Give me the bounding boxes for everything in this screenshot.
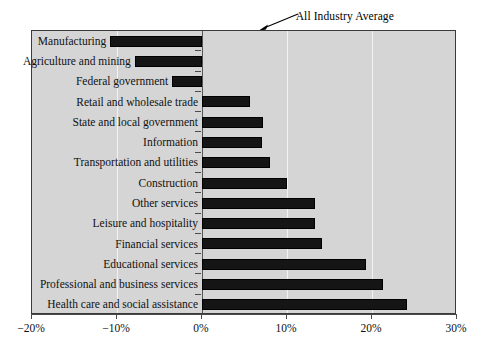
category-tick bbox=[195, 253, 201, 254]
category-tick bbox=[195, 131, 201, 132]
category-tick bbox=[195, 111, 201, 112]
category-tick bbox=[195, 233, 201, 234]
bar bbox=[202, 178, 287, 189]
bar bbox=[202, 279, 383, 290]
category-label: Agriculture and mining bbox=[23, 55, 131, 67]
category-tick bbox=[195, 172, 201, 173]
bar-row bbox=[32, 193, 455, 213]
x-axis-tick bbox=[456, 314, 457, 319]
x-axis-tick-label: 30% bbox=[445, 322, 466, 334]
x-axis-tick-label: 20% bbox=[360, 322, 381, 334]
category-label: Leisure and hospitality bbox=[93, 217, 198, 229]
category-label: Health care and social assistance bbox=[47, 298, 198, 310]
category-label: Educational services bbox=[103, 258, 198, 270]
x-axis-tick bbox=[201, 314, 202, 319]
category-tick bbox=[195, 91, 201, 92]
bar bbox=[202, 238, 322, 249]
bar bbox=[172, 76, 202, 87]
x-axis-tick-label: 10% bbox=[275, 322, 296, 334]
bar bbox=[110, 36, 202, 47]
x-axis-tick bbox=[371, 314, 372, 319]
x-axis-tick bbox=[116, 314, 117, 319]
category-tick bbox=[195, 213, 201, 214]
x-axis-tick-label: 0% bbox=[193, 322, 208, 334]
all-industry-average-arrow-icon bbox=[254, 12, 300, 32]
all-industry-average-label: All Industry Average bbox=[296, 10, 394, 22]
category-label: Federal government bbox=[76, 75, 168, 87]
bar bbox=[202, 137, 262, 148]
x-axis-tick bbox=[286, 314, 287, 319]
category-label: Professional and business services bbox=[40, 278, 198, 290]
category-tick bbox=[195, 273, 201, 274]
x-axis-tick bbox=[31, 314, 32, 319]
plot-area bbox=[31, 30, 456, 314]
bar-row bbox=[32, 173, 455, 193]
bar bbox=[135, 56, 202, 67]
category-tick bbox=[195, 152, 201, 153]
bar bbox=[202, 117, 263, 128]
category-tick bbox=[195, 294, 201, 295]
bar-row bbox=[32, 132, 455, 152]
bar-chart: All Industry Average ManufacturingAgricu… bbox=[0, 0, 487, 351]
category-label: State and local government bbox=[72, 116, 198, 128]
category-tick bbox=[195, 50, 201, 51]
category-label: Other services bbox=[132, 197, 198, 209]
bar bbox=[202, 157, 270, 168]
bar bbox=[202, 96, 250, 107]
bar-row bbox=[32, 234, 455, 254]
bar bbox=[202, 198, 315, 209]
bar bbox=[202, 259, 366, 270]
x-axis-tick-label: −10% bbox=[102, 322, 130, 334]
x-axis-line bbox=[31, 314, 456, 315]
category-label: Transportation and utilities bbox=[74, 156, 198, 168]
category-label: Manufacturing bbox=[38, 35, 106, 47]
bar-row bbox=[32, 254, 455, 274]
category-tick bbox=[195, 71, 201, 72]
category-label: Retail and wholesale trade bbox=[76, 96, 198, 108]
bar bbox=[202, 218, 315, 229]
category-label: Information bbox=[143, 136, 198, 148]
category-label: Construction bbox=[139, 177, 198, 189]
bar bbox=[202, 299, 407, 310]
bars-layer bbox=[32, 31, 455, 313]
x-axis-tick-label: −20% bbox=[17, 322, 45, 334]
category-tick bbox=[195, 192, 201, 193]
category-label: Financial services bbox=[115, 238, 198, 250]
